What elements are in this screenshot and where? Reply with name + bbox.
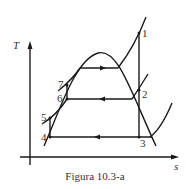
isobar-low — [150, 103, 172, 137]
label-4: 4 — [41, 131, 47, 143]
y-axis-label: T — [13, 39, 20, 51]
isobar-high — [118, 17, 146, 68]
label-7: 7 — [58, 78, 64, 90]
y-axis-arrow — [28, 41, 33, 49]
x-axis-arrow — [171, 155, 179, 160]
label-6: 6 — [57, 92, 63, 104]
label-1: 1 — [142, 27, 148, 39]
label-5: 5 — [41, 111, 47, 123]
arrow-left-icon — [99, 97, 105, 102]
arrow-left-icon — [94, 135, 100, 140]
figure-caption: Figura 10.3-a — [0, 170, 190, 182]
label-3: 3 — [140, 137, 146, 149]
label-2: 2 — [142, 88, 148, 100]
arrow-right-icon — [100, 66, 106, 71]
ts-diagram: 1 2 3 4 5 6 7 T s — [0, 0, 190, 189]
